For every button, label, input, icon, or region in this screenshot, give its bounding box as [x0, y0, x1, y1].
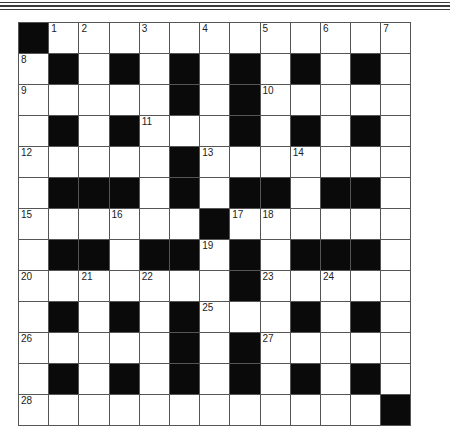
grid-cell[interactable]: [19, 178, 49, 209]
grid-cell[interactable]: [230, 147, 260, 178]
grid-cell[interactable]: 17: [230, 209, 260, 240]
grid-cell[interactable]: [79, 395, 109, 426]
grid-cell[interactable]: [351, 23, 381, 54]
grid-cell[interactable]: [261, 364, 291, 395]
grid-cell[interactable]: [200, 116, 230, 147]
grid-cell[interactable]: 21: [79, 271, 109, 302]
grid-cell[interactable]: [140, 302, 170, 333]
grid-cell[interactable]: [170, 23, 200, 54]
grid-cell[interactable]: [321, 333, 351, 364]
grid-cell[interactable]: [200, 333, 230, 364]
grid-cell[interactable]: [79, 54, 109, 85]
grid-cell[interactable]: [140, 209, 170, 240]
grid-cell[interactable]: [200, 364, 230, 395]
grid-cell[interactable]: [200, 54, 230, 85]
grid-cell[interactable]: [49, 271, 79, 302]
grid-cell[interactable]: 20: [19, 271, 49, 302]
grid-cell[interactable]: [291, 85, 321, 116]
grid-cell[interactable]: [351, 395, 381, 426]
grid-cell[interactable]: 13: [200, 147, 230, 178]
grid-cell[interactable]: [381, 54, 411, 85]
grid-cell[interactable]: [381, 116, 411, 147]
grid-cell[interactable]: [140, 333, 170, 364]
grid-cell[interactable]: [230, 302, 260, 333]
grid-cell[interactable]: 6: [321, 23, 351, 54]
grid-cell[interactable]: 3: [140, 23, 170, 54]
grid-cell[interactable]: [79, 209, 109, 240]
grid-cell[interactable]: [321, 209, 351, 240]
grid-cell[interactable]: [261, 147, 291, 178]
grid-cell[interactable]: 16: [110, 209, 140, 240]
grid-cell[interactable]: [381, 147, 411, 178]
grid-cell[interactable]: [110, 395, 140, 426]
grid-cell[interactable]: [291, 271, 321, 302]
grid-cell[interactable]: 25: [200, 302, 230, 333]
grid-cell[interactable]: [170, 209, 200, 240]
grid-cell[interactable]: [200, 395, 230, 426]
grid-cell[interactable]: 7: [381, 23, 411, 54]
grid-cell[interactable]: [261, 240, 291, 271]
grid-cell[interactable]: 22: [140, 271, 170, 302]
grid-cell[interactable]: [140, 85, 170, 116]
grid-cell[interactable]: [49, 395, 79, 426]
grid-cell[interactable]: [261, 54, 291, 85]
grid-cell[interactable]: [291, 333, 321, 364]
grid-cell[interactable]: [381, 333, 411, 364]
grid-cell[interactable]: [291, 209, 321, 240]
grid-cell[interactable]: [110, 240, 140, 271]
grid-cell[interactable]: [381, 240, 411, 271]
grid-cell[interactable]: 2: [79, 23, 109, 54]
grid-cell[interactable]: [79, 116, 109, 147]
grid-cell[interactable]: [79, 364, 109, 395]
grid-cell[interactable]: 23: [261, 271, 291, 302]
grid-cell[interactable]: [291, 178, 321, 209]
grid-cell[interactable]: [321, 54, 351, 85]
grid-cell[interactable]: [110, 23, 140, 54]
grid-cell[interactable]: [321, 116, 351, 147]
grid-cell[interactable]: 26: [19, 333, 49, 364]
grid-cell[interactable]: 11: [140, 116, 170, 147]
grid-cell[interactable]: 5: [261, 23, 291, 54]
grid-cell[interactable]: [261, 302, 291, 333]
grid-cell[interactable]: [79, 147, 109, 178]
grid-cell[interactable]: [19, 364, 49, 395]
grid-cell[interactable]: [110, 333, 140, 364]
grid-cell[interactable]: [381, 271, 411, 302]
grid-cell[interactable]: [351, 147, 381, 178]
grid-cell[interactable]: [170, 271, 200, 302]
grid-cell[interactable]: 15: [19, 209, 49, 240]
grid-cell[interactable]: [381, 178, 411, 209]
grid-cell[interactable]: [140, 178, 170, 209]
grid-cell[interactable]: 19: [200, 240, 230, 271]
grid-cell[interactable]: [261, 395, 291, 426]
grid-cell[interactable]: [321, 302, 351, 333]
grid-cell[interactable]: [49, 209, 79, 240]
grid-cell[interactable]: [381, 302, 411, 333]
grid-cell[interactable]: [19, 240, 49, 271]
grid-cell[interactable]: 14: [291, 147, 321, 178]
grid-cell[interactable]: [110, 271, 140, 302]
grid-cell[interactable]: [351, 271, 381, 302]
grid-cell[interactable]: [110, 85, 140, 116]
grid-cell[interactable]: [351, 209, 381, 240]
grid-cell[interactable]: [291, 23, 321, 54]
grid-cell[interactable]: [321, 85, 351, 116]
grid-cell[interactable]: [230, 23, 260, 54]
grid-cell[interactable]: [351, 333, 381, 364]
grid-cell[interactable]: [321, 364, 351, 395]
grid-cell[interactable]: 9: [19, 85, 49, 116]
grid-cell[interactable]: [291, 395, 321, 426]
grid-cell[interactable]: 18: [261, 209, 291, 240]
grid-cell[interactable]: 4: [200, 23, 230, 54]
grid-cell[interactable]: 28: [19, 395, 49, 426]
grid-cell[interactable]: 10: [261, 85, 291, 116]
grid-cell[interactable]: [170, 116, 200, 147]
grid-cell[interactable]: [140, 395, 170, 426]
grid-cell[interactable]: 27: [261, 333, 291, 364]
grid-cell[interactable]: [321, 395, 351, 426]
grid-cell[interactable]: [230, 395, 260, 426]
grid-cell[interactable]: [79, 333, 109, 364]
grid-cell[interactable]: [49, 333, 79, 364]
grid-cell[interactable]: [381, 209, 411, 240]
grid-cell[interactable]: [19, 116, 49, 147]
